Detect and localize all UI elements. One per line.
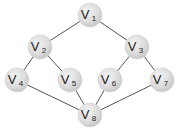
node-label: V — [81, 107, 90, 122]
node-v2: V2 — [28, 35, 52, 59]
node-v4: V4 — [5, 68, 29, 92]
node-v8: V8 — [78, 103, 102, 127]
node-label: V — [153, 72, 162, 87]
node-v7: V7 — [150, 68, 174, 92]
node-subscript: 4 — [19, 79, 24, 88]
node-subscript: 3 — [139, 46, 144, 55]
node-label: V — [128, 39, 137, 54]
node-label: V — [101, 72, 110, 87]
node-subscript: 1 — [92, 14, 97, 23]
node-v1: V1 — [78, 3, 102, 27]
node-subscript: 2 — [42, 46, 47, 55]
node-label: V — [81, 7, 90, 22]
node-v5: V5 — [58, 68, 82, 92]
node-label: V — [31, 39, 40, 54]
node-label: V — [61, 72, 70, 87]
node-label: V — [8, 72, 17, 87]
node-subscript: 6 — [112, 79, 117, 88]
nodes-group: V1V2V3V4V5V6V7V8 — [5, 3, 174, 127]
node-subscript: 7 — [164, 79, 169, 88]
node-subscript: 8 — [92, 114, 97, 123]
edges-group — [17, 15, 162, 115]
node-v6: V6 — [98, 68, 122, 92]
node-v3: V3 — [125, 35, 149, 59]
node-subscript: 5 — [72, 79, 77, 88]
graph-diagram: V1V2V3V4V5V6V7V8 — [0, 0, 180, 138]
